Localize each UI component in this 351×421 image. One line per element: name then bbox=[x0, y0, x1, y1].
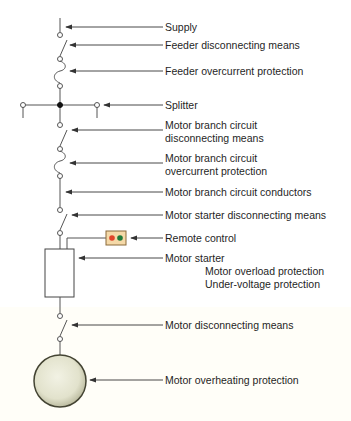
motor-icon bbox=[34, 355, 86, 407]
remote-control-box bbox=[106, 231, 126, 245]
label-mbc-overcurrent-2: overcurrent protection bbox=[165, 165, 267, 177]
label-splitter: Splitter bbox=[165, 99, 198, 111]
label-mbc-overcurrent-1: Motor branch circuit bbox=[165, 152, 257, 164]
label-overload: Motor overload protection bbox=[205, 265, 324, 277]
label-undervoltage: Under-voltage protection bbox=[205, 278, 320, 290]
label-mbc-disconnect-1: Motor branch circuit bbox=[165, 119, 257, 131]
label-feeder-overcurrent: Feeder overcurrent protection bbox=[165, 65, 303, 77]
label-supply: Supply bbox=[165, 21, 197, 33]
label-motor-disconnect: Motor disconnecting means bbox=[165, 319, 293, 331]
label-feeder-disconnect: Feeder disconnecting means bbox=[165, 39, 300, 51]
label-mbc-disconnect-2: disconnecting means bbox=[165, 132, 264, 144]
label-starter-disconnect: Motor starter disconnecting means bbox=[165, 209, 326, 221]
label-remote-control: Remote control bbox=[165, 232, 236, 244]
label-mbc-conductors: Motor branch circuit conductors bbox=[165, 186, 311, 198]
label-overheating: Motor overheating protection bbox=[165, 374, 299, 386]
label-motor-starter: Motor starter bbox=[165, 252, 225, 264]
